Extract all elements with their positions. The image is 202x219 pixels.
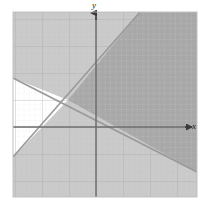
y-axis-label: y (92, 1, 96, 10)
graph-screenshot: y x (0, 0, 202, 219)
x-axis-label: x (192, 122, 196, 131)
inequality-graph-figure (0, 0, 202, 219)
major-gridlines (13, 12, 197, 197)
